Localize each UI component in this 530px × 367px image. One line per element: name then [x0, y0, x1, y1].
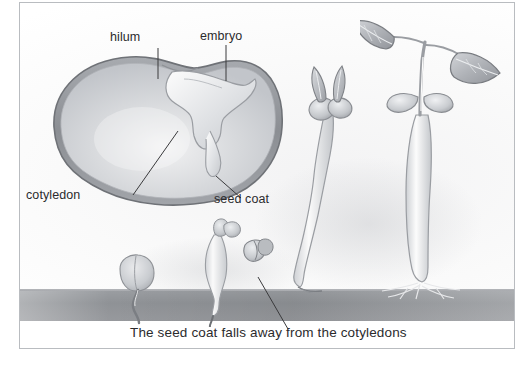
label-embryo: embryo — [200, 29, 242, 43]
cotyledon-leader-line — [133, 131, 178, 195]
true-leaf-right — [451, 53, 500, 84]
petiole-left — [394, 37, 424, 43]
label-cotyledon: cotyledon — [26, 188, 80, 202]
label-seed-coat: seed coat — [214, 192, 269, 206]
figure-root: hilum embryo cotyledon seed coat — [0, 0, 530, 367]
cotyledon-left-stage4 — [387, 94, 418, 113]
petiole-right — [426, 45, 460, 55]
radicle-stage1 — [133, 290, 139, 323]
cotyledon-right-stage4 — [424, 94, 453, 113]
seed-coat-fragment-b — [258, 239, 273, 255]
stage-4-mature-seedling — [360, 11, 510, 301]
true-leaf-left — [360, 21, 394, 49]
figure-frame: hilum embryo cotyledon seed coat — [19, 2, 515, 349]
hypocotyl-stage2 — [205, 234, 226, 316]
cotyledon-right-stage2 — [224, 222, 241, 237]
hypocotyl-stage4 — [406, 115, 431, 282]
caption-leader-line — [258, 277, 288, 329]
figure-caption: The seed coat falls away from the cotyle… — [130, 325, 407, 340]
root-system-stage4 — [382, 283, 460, 299]
hypocotyl-stage3 — [294, 115, 334, 287]
label-hilum: hilum — [110, 30, 140, 44]
stage-1-germinating-seed — [106, 251, 176, 326]
seed-body-stage1 — [120, 255, 154, 291]
